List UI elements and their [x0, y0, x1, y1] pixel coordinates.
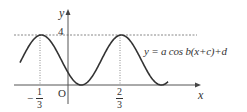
- x-axis-arrow-icon: [195, 83, 201, 88]
- fraction-numerator: 2: [117, 87, 122, 97]
- equation-label: y = a cos b(x+c)+d: [144, 46, 227, 57]
- fraction-denominator: 3: [37, 100, 42, 110]
- x-tick-neg-sign: −: [27, 93, 33, 104]
- fraction-denominator: 3: [117, 100, 122, 110]
- y-axis-arrow-icon: [66, 9, 71, 15]
- cosine-curve: [20, 35, 168, 85]
- x-tick-label-neg-one-third: 1 3: [36, 87, 43, 110]
- y-axis-label: y: [59, 7, 64, 19]
- y-tick-label-4: 4: [58, 26, 64, 37]
- x-axis-label: x: [198, 89, 203, 101]
- origin-label: O: [58, 88, 66, 99]
- fraction-numerator: 1: [37, 87, 42, 97]
- x-tick-label-two-thirds: 2 3: [116, 87, 123, 110]
